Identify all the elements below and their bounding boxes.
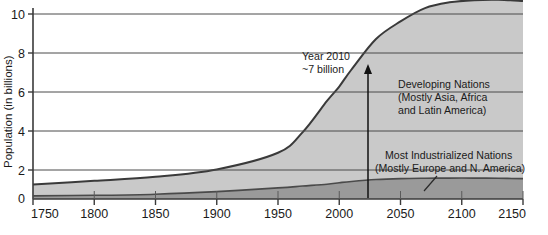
y-tick-label-0: 0 <box>18 192 25 206</box>
x-tick-label-1750: 1750 <box>31 207 59 221</box>
x-tick-label-1850: 1850 <box>142 207 170 221</box>
developing-nations-annotation: Developing Nations (Mostly Asia, Africa … <box>398 78 490 116</box>
industrialized-label-line-2: (Mostly Europe and N. America) <box>375 162 525 174</box>
y-axis-title: Population (in billions) <box>2 55 14 168</box>
callout-line-2: ~7 billion <box>302 63 344 75</box>
x-axis-tick-labels: 175018001850190019502000205021002150 <box>31 207 526 221</box>
developing-label-line-1: Developing Nations <box>398 78 490 90</box>
x-tick-label-2100: 2100 <box>448 207 476 221</box>
y-tick-label-4: 4 <box>18 125 25 139</box>
x-tick-label-1950: 1950 <box>264 207 292 221</box>
population-growth-chart: 10 8 6 4 2 0 175018001850190019502000205… <box>0 0 548 235</box>
x-tick-label-1900: 1900 <box>203 207 231 221</box>
x-tick-label-2000: 2000 <box>325 207 353 221</box>
y-tick-label-2: 2 <box>18 164 25 178</box>
y-tick-label-10: 10 <box>11 8 25 22</box>
industrialized-label-line-1: Most Industrialized Nations <box>385 149 512 161</box>
developing-label-line-3: and Latin America) <box>398 104 486 116</box>
y-tick-label-6: 6 <box>18 86 25 100</box>
callout-line-1: Year 2010 <box>302 50 350 62</box>
y-tick-label-8: 8 <box>18 47 25 61</box>
developing-label-line-2: (Mostly Asia, Africa <box>398 91 488 103</box>
x-tick-label-2050: 2050 <box>387 207 415 221</box>
chart-canvas: 10 8 6 4 2 0 175018001850190019502000205… <box>0 0 548 235</box>
x-tick-label-1800: 1800 <box>80 207 108 221</box>
x-tick-label-2150: 2150 <box>498 207 526 221</box>
